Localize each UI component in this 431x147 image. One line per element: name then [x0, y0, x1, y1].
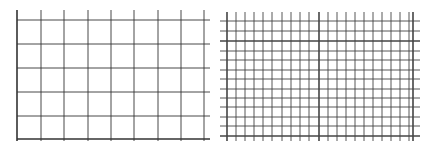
fine-grid-panel [220, 12, 420, 141]
coarse-grid-panel [17, 10, 210, 141]
grid-illustration [0, 0, 431, 147]
